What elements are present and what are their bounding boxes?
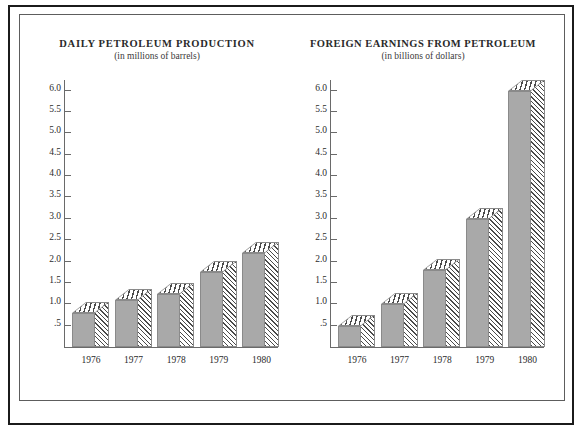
x-axis-label: 1976	[337, 355, 377, 365]
y-axis-tick-label: 1.0	[35, 296, 61, 306]
y-axis-tick-label: 4.5	[35, 147, 61, 157]
chart-subtitle: (in billions of dollars)	[292, 51, 554, 61]
y-axis-tick-label: 5.5	[301, 104, 327, 114]
y-axis-tick-label: .5	[35, 318, 61, 328]
plot-area: .51.01.52.02.53.03.54.04.55.05.56.0 1976…	[64, 80, 278, 348]
y-axis-tick-label: 1.5	[301, 275, 327, 285]
bar-group	[242, 241, 280, 347]
x-axis-line	[64, 347, 278, 348]
y-axis-tick-label: 2.0	[301, 254, 327, 264]
bar-front-face	[115, 300, 138, 347]
x-axis-label: 1976	[71, 355, 111, 365]
bar-front-face	[72, 313, 95, 347]
bar-front-face	[157, 294, 180, 347]
bar-side-face	[489, 208, 503, 347]
x-axis-line	[330, 347, 544, 348]
bar-group	[115, 288, 153, 347]
bar-side-face	[223, 261, 237, 347]
y-axis-tick-label: 5.0	[35, 125, 61, 135]
y-axis-tick-label: 1.0	[301, 296, 327, 306]
bar-side-face	[446, 259, 460, 347]
x-axis-label: 1979	[199, 355, 239, 365]
bar-group	[200, 260, 238, 347]
y-axis-tick-label: 4.0	[301, 168, 327, 178]
x-axis-label: 1978	[156, 355, 196, 365]
bar-front-face	[242, 253, 265, 347]
y-axis-tick-label: 4.0	[35, 168, 61, 178]
bar-front-face	[200, 272, 223, 347]
chart-title: DAILY PETROLEUM PRODUCTION	[26, 38, 288, 49]
bar-group	[508, 79, 546, 347]
x-axis-label: 1977	[114, 355, 154, 365]
x-axis-label: 1979	[465, 355, 505, 365]
y-axis-tick-label: 3.5	[301, 189, 327, 199]
bar-group	[157, 282, 195, 347]
x-axis-label: 1977	[380, 355, 420, 365]
y-axis-tick-label: 5.5	[35, 104, 61, 114]
bar-front-face	[338, 326, 361, 347]
y-axis-tick-label: 2.5	[35, 232, 61, 242]
chart-panel-daily-petroleum-production: DAILY PETROLEUM PRODUCTION (in millions …	[26, 38, 288, 378]
y-axis-tick-label: 2.5	[301, 232, 327, 242]
y-axis-tick-label: 3.0	[301, 211, 327, 221]
bar-front-face	[423, 270, 446, 347]
bar-front-face	[466, 219, 489, 347]
y-axis-tick-label: 3.0	[35, 211, 61, 221]
bar-group	[381, 292, 419, 347]
x-axis-label: 1978	[422, 355, 462, 365]
bar-front-face	[381, 304, 404, 347]
bar-side-face	[265, 242, 279, 347]
bar-series	[331, 80, 544, 347]
chart-page: DAILY PETROLEUM PRODUCTION (in millions …	[0, 0, 583, 435]
bar-group	[72, 301, 110, 347]
bar-front-face	[508, 91, 531, 347]
bar-group	[338, 314, 376, 347]
x-axis-labels: 19761977197819791980	[331, 349, 544, 369]
chart-title: FOREIGN EARNINGS FROM PETROLEUM	[292, 38, 554, 49]
y-axis-tick-label: 2.0	[35, 254, 61, 264]
x-axis-labels: 19761977197819791980	[65, 349, 278, 369]
bar-side-face	[531, 80, 545, 347]
y-axis-tick-label: 6.0	[301, 83, 327, 93]
plot-area: .51.01.52.02.53.03.54.04.55.05.56.0 1976…	[330, 80, 544, 348]
y-axis-tick-label: 3.5	[35, 189, 61, 199]
x-axis-label: 1980	[241, 355, 281, 365]
y-axis-tick-label: .5	[301, 318, 327, 328]
y-axis-tick-label: 6.0	[35, 83, 61, 93]
y-axis-tick-label: 5.0	[301, 125, 327, 135]
bar-series	[65, 80, 278, 347]
bar-group	[466, 207, 504, 347]
y-axis-tick-label: 4.5	[301, 147, 327, 157]
bar-side-face	[180, 283, 194, 347]
x-axis-label: 1980	[507, 355, 547, 365]
y-axis-tick-label: 1.5	[35, 275, 61, 285]
chart-panel-foreign-earnings-from-petroleum: FOREIGN EARNINGS FROM PETROLEUM (in bill…	[292, 38, 554, 378]
chart-subtitle: (in millions of barrels)	[26, 51, 288, 61]
bar-group	[423, 258, 461, 347]
